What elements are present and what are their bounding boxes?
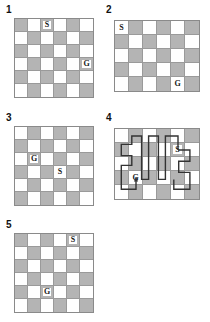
grid-cell [80,247,93,260]
grid-cell [15,286,28,299]
grid-cell [15,273,28,286]
figure-sheet: 1SG2SG3GS4SG5SG [0,0,210,322]
grid-cell [15,260,28,273]
grid-cell [80,299,93,312]
grid-cell [67,299,80,312]
grid-cell [54,273,67,286]
grid-cell [67,247,80,260]
grid-cell [28,260,41,273]
grid-cell [41,273,54,286]
grid-wrapper-5: SG [14,233,94,313]
grid-cell: S [67,234,80,247]
grid-cell [41,260,54,273]
grid-cell [67,273,80,286]
grid-cell [80,286,93,299]
grid-cell [67,286,80,299]
grid-cell [28,234,41,247]
grid-cell [67,260,80,273]
grid-cell [15,234,28,247]
grid-cell [41,247,54,260]
grid-cell [54,234,67,247]
grid-cell [54,247,67,260]
grid-cell [41,299,54,312]
grid-cell [15,299,28,312]
grid-cell [41,234,54,247]
grid-cell [28,273,41,286]
grid-cell [28,299,41,312]
grid-cell [80,260,93,273]
grid-cell [54,299,67,312]
checkerboard-grid-5: SG [14,233,94,313]
start-marker: S [69,236,77,244]
grid-cell [15,247,28,260]
grid-cell [80,234,93,247]
grid-cell [54,286,67,299]
panel-label-5: 5 [6,220,12,230]
grid-cell [80,273,93,286]
grid-cell [54,260,67,273]
grid-cell [28,247,41,260]
panel-5: 5SG [0,0,210,322]
grid-cell: G [41,286,54,299]
goal-marker: G [43,288,51,296]
grid-cell [28,286,41,299]
